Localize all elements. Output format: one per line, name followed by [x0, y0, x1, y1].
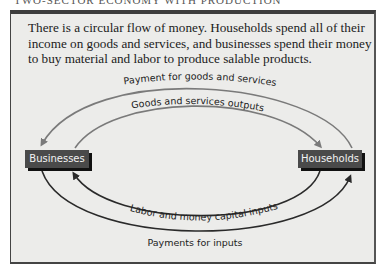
circular-flow-diagram: Payment for goods and services Goods and…	[0, 0, 390, 275]
arrow-goods-services-outputs	[75, 106, 320, 148]
label-payments-for-inputs: Payments for inputs	[147, 237, 242, 248]
arrow-labor-money-capital	[74, 171, 320, 216]
node-households: Households	[298, 150, 362, 168]
node-businesses: Businesses	[25, 150, 89, 168]
label-labor-money-capital: Labor and money capital inputs	[129, 200, 279, 223]
label-payment-goods-services: Payment for goods and services	[123, 70, 277, 88]
